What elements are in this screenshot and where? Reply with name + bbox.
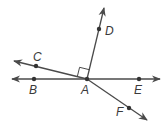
label-B: B	[29, 83, 37, 97]
label-D: D	[105, 24, 114, 38]
label-F: F	[116, 105, 124, 119]
point-B	[32, 77, 36, 81]
point-C	[34, 64, 38, 68]
label-E: E	[134, 83, 143, 97]
ray-AC	[14, 61, 87, 79]
point-D	[97, 27, 101, 31]
point-E	[137, 77, 141, 81]
label-C: C	[33, 50, 42, 64]
geometry-diagram: A B C D E F	[0, 0, 162, 129]
ray-AD	[87, 8, 104, 79]
label-A: A	[80, 83, 89, 97]
point-F	[127, 106, 131, 110]
point-A	[85, 77, 89, 81]
